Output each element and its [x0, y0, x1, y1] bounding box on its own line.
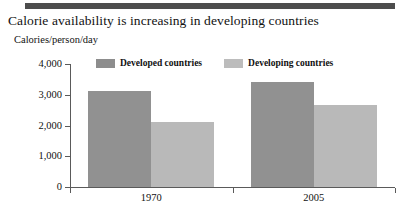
- y-axis-tick-label-wrap: 4,000: [18, 59, 62, 69]
- y-axis-unit-label: Calories/person/day: [14, 34, 98, 45]
- bar-group: [251, 64, 377, 187]
- chart-figure: Calorie availability is increasing in de…: [0, 0, 411, 214]
- bar-developed-2005[interactable]: [251, 82, 314, 187]
- bar-developing-2005[interactable]: [314, 105, 377, 187]
- y-axis-tick: [65, 126, 70, 127]
- bar-developed-1970[interactable]: [88, 91, 151, 187]
- x-axis-tick-label: 1970: [70, 192, 233, 203]
- y-axis-tick-label: 0: [20, 182, 62, 192]
- y-axis-tick-label-wrap: 3,000: [18, 90, 62, 100]
- y-axis-tick: [65, 95, 70, 96]
- y-axis-tick-label-wrap: 0: [18, 182, 62, 192]
- y-axis-tick: [65, 156, 70, 157]
- x-axis-tick-label: 2005: [233, 192, 396, 203]
- y-axis-tick-label: 2,000: [20, 121, 62, 131]
- bar-developing-1970[interactable]: [151, 122, 214, 187]
- y-axis-tick-label: 3,000: [20, 90, 62, 100]
- y-axis-tick-label-wrap: 1,000: [18, 151, 62, 161]
- x-axis-tick: [395, 188, 396, 193]
- y-axis-tick-label: 4,000: [20, 59, 62, 69]
- header-rule: [25, 3, 395, 9]
- y-axis-tick: [65, 64, 70, 65]
- y-axis-tick-label-wrap: 2,000: [18, 121, 62, 131]
- chart-title: Calorie availability is increasing in de…: [8, 13, 319, 29]
- bar-group: [88, 64, 214, 187]
- x-axis-tick-origin: [70, 188, 71, 193]
- y-axis-tick-label: 1,000: [20, 151, 62, 161]
